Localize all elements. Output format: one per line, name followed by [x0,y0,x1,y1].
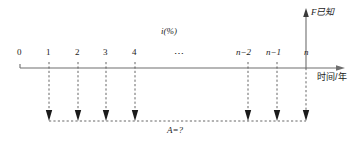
payment-arrow-n-icon [303,110,309,121]
diagram-canvas [0,0,360,145]
annuity-label: A=? [167,126,183,135]
future-value-arrow-icon [303,8,309,17]
future-value-label: F已知 [311,8,335,17]
payment-arrowheads [46,110,309,121]
payment-arrow-1-icon [46,110,52,121]
tick-label-n-minus-1: n−1 [266,48,281,57]
tick-label-2: 2 [75,48,80,57]
ellipsis-label: ⋯ [174,49,185,59]
future-value-axis [303,8,309,68]
tick-label-3: 3 [103,48,108,57]
interest-rate-label: i(%) [161,27,177,36]
payment-arrow-4-icon [132,110,138,121]
payment-droplines [49,62,306,113]
cash-flow-diagram: 0 1 2 3 4 ⋯ n−2 n−1 n i(%) F已知 时间/年 A=? [0,0,360,145]
tick-label-n-minus-2: n−2 [236,48,251,57]
payment-arrow-2-icon [75,110,81,121]
tick-label-n: n [304,48,309,57]
tick-label-1: 1 [46,48,51,57]
payment-arrow-n-1-icon [274,110,280,121]
time-axis [20,64,345,71]
payment-arrow-3-icon [103,110,109,121]
tick-label-0: 0 [17,48,22,57]
payment-arrow-n-2-icon [245,110,251,121]
time-axis-arrow-icon [336,65,345,71]
x-axis-label: 时间/年 [317,73,347,82]
tick-label-4: 4 [132,48,137,57]
